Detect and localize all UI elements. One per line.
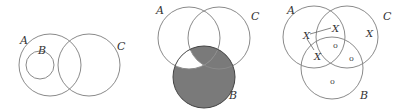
x-mark-a-b: X xyxy=(313,51,322,62)
x-mark-a-c: X xyxy=(331,23,340,34)
circle-a xyxy=(19,34,81,96)
label-a: A xyxy=(19,34,28,47)
o-mark-bc: o xyxy=(349,54,354,63)
venn-diagram-subset: A B C xyxy=(19,34,126,96)
label-b: B xyxy=(228,89,237,102)
o-mark-abc: o xyxy=(333,41,338,50)
venn-diagram-marked: A C B X X X X o o o xyxy=(283,4,392,102)
venn-diagram-shaded: A C B xyxy=(155,4,260,108)
label-c: C xyxy=(251,10,260,23)
shaded-region xyxy=(158,7,235,108)
label-c: C xyxy=(383,10,392,23)
venn-diagrams-figure: A B C A C B A C B X X X X o o o xyxy=(0,0,405,111)
circle-c xyxy=(58,34,120,96)
label-a: A xyxy=(286,4,295,17)
connector-line xyxy=(310,28,331,34)
o-mark-b-only: o xyxy=(330,77,335,86)
x-mark-a-only: X xyxy=(302,30,311,41)
label-c: C xyxy=(117,40,126,53)
x-mark-c-only: X xyxy=(365,28,374,39)
label-a: A xyxy=(155,4,164,17)
label-b: B xyxy=(37,44,46,57)
label-b: B xyxy=(359,89,368,102)
